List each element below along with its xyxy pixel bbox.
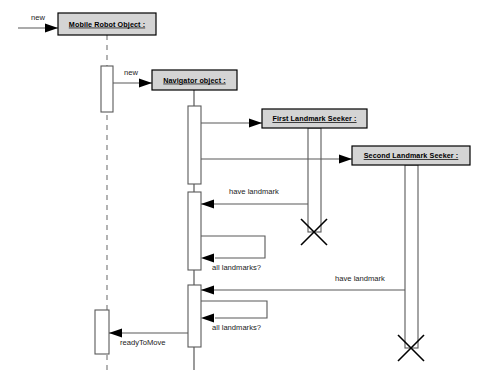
arrowhead-msg_new_robot: [45, 23, 58, 32]
arrowhead-msg_have_landmark_2: [201, 285, 214, 294]
arrowhead-msg_all_landmarks_1: [201, 253, 214, 262]
uml-sequence-diagram: newnewhave landmarkall landmarks?have la…: [0, 0, 503, 375]
message-label-msg_all_landmarks_2: all landmarks?: [212, 323, 261, 332]
message-label-msg_ready_to_move: readyToMove: [120, 338, 166, 347]
message-msg_have_landmark_2[interactable]: have landmark: [201, 274, 405, 295]
messages-layer: newnewhave landmarkall landmarks?have la…: [18, 13, 405, 347]
arrowhead-msg_ready_to_move: [109, 328, 122, 337]
message-msg_new_robot[interactable]: new: [18, 13, 58, 33]
activation-bar-mobile_robot-0[interactable]: [101, 66, 113, 112]
lifeline-mobile_robot: [95, 35, 113, 370]
message-label-msg_all_landmarks_1: all landmarks?: [212, 263, 261, 272]
message-msg_new_navigator[interactable]: new: [113, 68, 152, 88]
message-label-msg_new_navigator: new: [124, 68, 138, 77]
activation-bar-navigator-1[interactable]: [188, 192, 201, 270]
message-msg_ready_to_move[interactable]: readyToMove: [109, 328, 188, 347]
lifeline-first_seeker: [301, 128, 327, 245]
arrowhead-msg_create_second_seeker: [339, 154, 352, 163]
object-box-label-second_seeker: Second Landmark Seeker :: [364, 151, 459, 160]
object-box-navigator[interactable]: Navigator object :: [152, 70, 237, 90]
sequence-diagram-canvas: newnewhave landmarkall landmarks?have la…: [0, 0, 503, 375]
message-label-msg_have_landmark_2: have landmark: [335, 274, 385, 283]
arrowhead-msg_new_navigator: [139, 78, 152, 87]
message-label-msg_new_robot: new: [31, 13, 45, 22]
object-box-mobile_robot[interactable]: Mobile Robot Object :: [58, 13, 156, 35]
message-label-msg_have_landmark_1: have landmark: [229, 187, 279, 196]
object-box-first_seeker[interactable]: First Landmark Seeker :: [262, 109, 367, 128]
activation-bar-navigator-2[interactable]: [188, 285, 201, 347]
activation-bar-first_seeker-0[interactable]: [308, 128, 321, 232]
activation-bar-second_seeker-0[interactable]: [405, 165, 418, 348]
object-boxes-layer: Mobile Robot Object :Navigator object :F…: [58, 13, 470, 165]
message-msg_have_landmark_1[interactable]: have landmark: [201, 187, 308, 209]
lifeline-navigator: [188, 90, 201, 370]
activation-bar-navigator-0[interactable]: [188, 106, 201, 184]
message-msg_create_first_seeker[interactable]: [201, 118, 262, 127]
message-msg_create_second_seeker[interactable]: [201, 154, 352, 163]
arrowhead-msg_all_landmarks_2: [201, 313, 214, 322]
message-msg_all_landmarks_2[interactable]: all landmarks?: [201, 301, 267, 332]
lifeline-second_seeker: [398, 165, 424, 361]
object-box-second_seeker[interactable]: Second Landmark Seeker :: [352, 146, 470, 165]
object-box-label-mobile_robot: Mobile Robot Object :: [69, 20, 145, 29]
arrowhead-msg_have_landmark_1: [201, 199, 214, 208]
arrowhead-msg_create_first_seeker: [249, 118, 262, 127]
object-box-label-first_seeker: First Landmark Seeker :: [272, 114, 356, 123]
message-msg_all_landmarks_1[interactable]: all landmarks?: [201, 236, 265, 272]
activation-bar-mobile_robot-1[interactable]: [95, 310, 109, 354]
object-box-label-navigator: Navigator object :: [163, 76, 226, 85]
